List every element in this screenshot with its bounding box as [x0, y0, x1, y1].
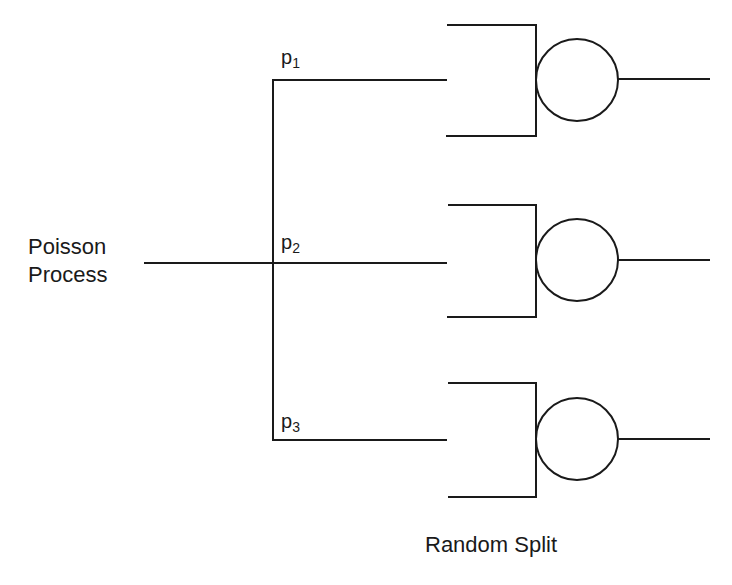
branch-3-probability: p3: [281, 410, 300, 435]
queue-1-server-icon: [536, 39, 618, 121]
branch-2-probability: p2: [281, 231, 300, 256]
queue-3-server-icon: [536, 398, 618, 480]
queue-1-buffer: [447, 25, 536, 136]
source-label-line1: Poisson: [28, 234, 107, 259]
branch-3: [273, 383, 709, 497]
queue-split-diagram: [0, 0, 732, 585]
branch-2: [273, 205, 709, 317]
queue-2-buffer: [448, 205, 536, 317]
queue-3-buffer: [449, 383, 536, 497]
source-label: Poisson Process: [28, 234, 107, 288]
source-label-line2: Process: [28, 262, 107, 287]
branch-1: [273, 25, 709, 136]
diagram-caption: Random Split: [425, 532, 557, 557]
queue-2-server-icon: [536, 219, 618, 301]
branch-1-probability: p1: [281, 46, 300, 71]
